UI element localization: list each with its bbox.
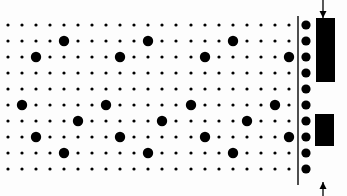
small-dot bbox=[6, 151, 9, 154]
small-dot bbox=[90, 119, 93, 122]
small-dot bbox=[231, 103, 234, 106]
small-dot bbox=[20, 39, 23, 42]
small-dot bbox=[259, 87, 262, 90]
large-dot bbox=[284, 52, 294, 62]
small-dot bbox=[132, 23, 135, 26]
small-dot bbox=[160, 135, 163, 138]
small-dot bbox=[62, 87, 65, 90]
small-dot bbox=[76, 151, 79, 154]
small-dot bbox=[203, 119, 206, 122]
small-dot bbox=[34, 167, 37, 170]
small-dot bbox=[217, 23, 220, 26]
small-dot bbox=[259, 119, 262, 122]
small-dot bbox=[174, 119, 177, 122]
small-dot bbox=[189, 167, 192, 170]
small-dot bbox=[245, 71, 248, 74]
small-dot bbox=[203, 39, 206, 42]
small-dot bbox=[189, 55, 192, 58]
small-dot bbox=[273, 39, 276, 42]
large-dot bbox=[143, 148, 153, 158]
small-dot bbox=[259, 103, 262, 106]
small-dot bbox=[146, 87, 149, 90]
small-dot bbox=[287, 167, 290, 170]
small-dot bbox=[189, 135, 192, 138]
small-dot bbox=[146, 119, 149, 122]
edge-dot bbox=[301, 36, 310, 45]
large-dot bbox=[73, 116, 83, 126]
small-dot bbox=[6, 103, 9, 106]
small-dot bbox=[287, 39, 290, 42]
small-dot bbox=[245, 23, 248, 26]
large-dot bbox=[115, 132, 125, 142]
small-dot bbox=[160, 103, 163, 106]
small-dot bbox=[6, 39, 9, 42]
edge-dot bbox=[301, 116, 310, 125]
small-dot bbox=[217, 39, 220, 42]
small-dot bbox=[273, 135, 276, 138]
small-dot bbox=[174, 71, 177, 74]
small-dot bbox=[217, 119, 220, 122]
small-dot bbox=[231, 71, 234, 74]
small-dot bbox=[34, 119, 37, 122]
small-dot bbox=[90, 55, 93, 58]
small-dot bbox=[20, 151, 23, 154]
small-dot bbox=[76, 135, 79, 138]
large-dot bbox=[284, 132, 294, 142]
small-dot bbox=[20, 135, 23, 138]
small-dot bbox=[118, 23, 121, 26]
small-dot bbox=[245, 135, 248, 138]
small-dot bbox=[146, 23, 149, 26]
small-dot bbox=[231, 23, 234, 26]
small-dot bbox=[118, 39, 121, 42]
small-dot bbox=[90, 39, 93, 42]
small-dot bbox=[20, 87, 23, 90]
small-dot bbox=[76, 71, 79, 74]
small-dot bbox=[203, 167, 206, 170]
small-dot bbox=[90, 151, 93, 154]
small-dot bbox=[20, 119, 23, 122]
large-dot bbox=[200, 132, 210, 142]
small-dot bbox=[104, 87, 107, 90]
small-dot bbox=[48, 39, 51, 42]
small-dot bbox=[217, 55, 220, 58]
large-dot bbox=[59, 148, 69, 158]
small-dot bbox=[174, 103, 177, 106]
small-dot bbox=[48, 71, 51, 74]
small-dot bbox=[259, 135, 262, 138]
small-dot bbox=[90, 23, 93, 26]
small-dot bbox=[273, 87, 276, 90]
small-dot bbox=[20, 23, 23, 26]
small-dot bbox=[34, 39, 37, 42]
small-dot bbox=[217, 103, 220, 106]
small-dot bbox=[245, 55, 248, 58]
small-dot bbox=[146, 103, 149, 106]
small-dot bbox=[203, 23, 206, 26]
small-dot bbox=[231, 55, 234, 58]
small-dot bbox=[245, 87, 248, 90]
small-dot bbox=[104, 55, 107, 58]
small-dot bbox=[217, 167, 220, 170]
large-dot bbox=[200, 52, 210, 62]
edge-dot bbox=[301, 68, 310, 77]
edge-dot bbox=[301, 132, 310, 141]
small-dot bbox=[259, 39, 262, 42]
small-dot bbox=[132, 55, 135, 58]
small-dot bbox=[76, 167, 79, 170]
lower-block bbox=[315, 114, 334, 146]
small-dot bbox=[48, 55, 51, 58]
small-dot bbox=[146, 71, 149, 74]
small-dot bbox=[146, 135, 149, 138]
small-dot bbox=[48, 103, 51, 106]
small-dot bbox=[118, 151, 121, 154]
small-dot bbox=[6, 167, 9, 170]
small-dot bbox=[76, 39, 79, 42]
dot-lattice-diagram bbox=[0, 0, 347, 196]
small-dot bbox=[245, 103, 248, 106]
small-dot bbox=[273, 167, 276, 170]
small-dot bbox=[118, 119, 121, 122]
small-dot bbox=[132, 39, 135, 42]
large-dot bbox=[242, 116, 252, 126]
small-dot bbox=[104, 23, 107, 26]
small-dot bbox=[203, 151, 206, 154]
large-dot bbox=[17, 100, 27, 110]
